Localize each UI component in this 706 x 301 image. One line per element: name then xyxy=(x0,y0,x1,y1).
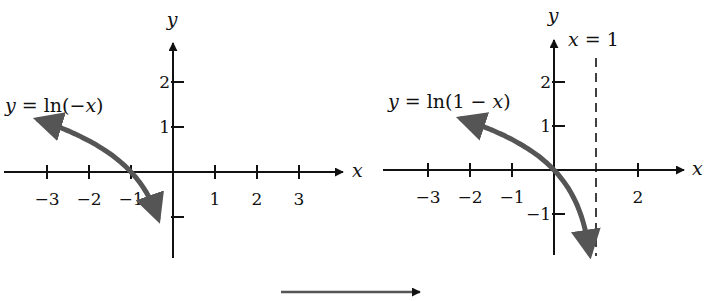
y-tick-label: 2 xyxy=(540,72,551,92)
x-tick-label: 1 xyxy=(210,189,221,209)
x-tick-label: −1 xyxy=(499,187,524,207)
asymptote-label: x = 1 xyxy=(568,28,619,50)
figure: x y −3−2−1123 21 y = ln(−x) x y −3−2−12 … xyxy=(0,0,706,301)
x-axis-label: x xyxy=(692,157,703,179)
x-axis-label: x xyxy=(352,159,363,181)
y-axis-label: y xyxy=(547,4,559,26)
y-tick-label: 1 xyxy=(540,116,551,136)
function-label: y = ln(1 − x) xyxy=(387,90,511,112)
y-axis-label: y xyxy=(166,8,178,30)
y-tick-label: −1 xyxy=(526,204,551,224)
x-tick-label: 2 xyxy=(633,187,644,207)
x-tick-label: −1 xyxy=(118,189,143,209)
x-tick-label: −2 xyxy=(76,189,101,209)
x-tick-label: −2 xyxy=(457,187,482,207)
x-tick-label: 3 xyxy=(294,189,305,209)
function-label: y = ln(−x) xyxy=(4,94,104,116)
x-tick-label: 2 xyxy=(252,189,263,209)
x-tick-label: −3 xyxy=(34,189,59,209)
graph-right: x y −3−2−12 21−1 x = 1 y = ln(1 − x) xyxy=(383,4,703,256)
x-tick-label: −3 xyxy=(415,187,440,207)
y-tick-label: 2 xyxy=(159,72,170,92)
graph-left: x y −3−2−1123 21 y = ln(−x) xyxy=(4,8,363,258)
y-tick-label: 1 xyxy=(159,117,170,137)
